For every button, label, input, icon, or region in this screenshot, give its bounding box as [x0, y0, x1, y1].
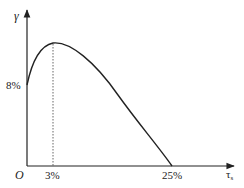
chart: γ 8% O 3% 25% τs	[0, 0, 244, 188]
y-axis-label: γ	[14, 9, 19, 23]
x-tick-25: 25%	[162, 169, 182, 181]
origin-label: O	[15, 168, 24, 182]
y-tick-8: 8%	[6, 79, 21, 91]
x-axis-label: τs	[226, 168, 233, 182]
x-axis-label-sub: s	[230, 174, 233, 182]
curve	[27, 43, 172, 166]
x-tick-3: 3%	[45, 169, 60, 181]
